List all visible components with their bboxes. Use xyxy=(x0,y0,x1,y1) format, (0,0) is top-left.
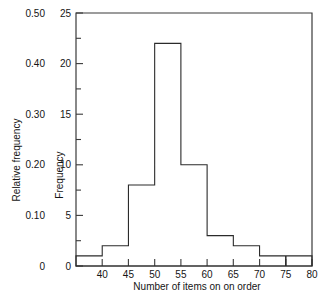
relative-frequency-tick-label: 0.50 xyxy=(26,8,46,19)
histogram-svg: 0 5 10 15 20 25 0 0.10 0.20 0.30 0.40 0.… xyxy=(0,0,327,298)
y-axis-title: Frequency xyxy=(54,151,65,198)
secondary-y-axis-title: Relative frequency xyxy=(11,119,22,202)
relative-frequency-tick-label: 0 xyxy=(39,261,45,272)
relative-frequency-tick-label: 0.20 xyxy=(26,159,46,170)
x-tick-label: 70 xyxy=(254,269,266,280)
x-tick-label: 65 xyxy=(228,269,240,280)
x-tick-label: 50 xyxy=(149,269,161,280)
relative-frequency-tick-label: 0.10 xyxy=(26,210,46,221)
x-tick-label: 60 xyxy=(202,269,214,280)
x-tick-label: 80 xyxy=(306,269,318,280)
x-tick-label: 40 xyxy=(97,269,109,280)
x-axis-title: Number of items on on order xyxy=(133,281,261,292)
x-tick-label: 45 xyxy=(123,269,135,280)
y-tick-label: 20 xyxy=(60,58,72,69)
y-tick-label: 5 xyxy=(65,210,71,221)
histogram-figure: 0 5 10 15 20 25 0 0.10 0.20 0.30 0.40 0.… xyxy=(0,0,327,298)
y-tick-label: 15 xyxy=(60,109,72,120)
relative-frequency-tick-label: 0.30 xyxy=(26,109,46,120)
chart-background xyxy=(0,0,327,298)
y-tick-label: 0 xyxy=(65,261,71,272)
x-tick-label: 75 xyxy=(280,269,292,280)
x-axis-tick-labels: 40 45 50 55 60 65 70 75 80 xyxy=(97,269,318,280)
relative-frequency-tick-label: 0.40 xyxy=(26,58,46,69)
x-tick-label: 55 xyxy=(175,269,187,280)
y-tick-label: 25 xyxy=(60,8,72,19)
